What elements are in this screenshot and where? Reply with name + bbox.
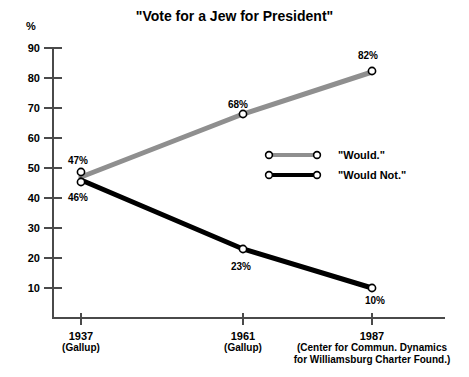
plot-area [0,0,469,377]
x-axis-source-1961: (Gallup) [193,342,293,354]
x-axis-group-1987: 1987 (Center for Commun. Dynamics for Wi… [282,330,462,366]
x-axis-group-1961: 1961 (Gallup) [193,330,293,354]
x-axis-year-1987: 1987 [282,330,462,342]
legend-label-would: "Would." [338,149,385,161]
data-label-would-not-1961: 23% [231,261,251,272]
x-axis-source-1987: (Center for Commun. Dynamics for William… [282,342,462,366]
x-axis-year-1961: 1961 [193,330,293,342]
x-axis-year-1937: 1937 [31,330,131,342]
data-point-would-not-1937 [77,178,84,185]
series-line-would [81,72,372,177]
data-label-would-not-1937: 46% [68,192,88,203]
data-point-would-not-1961 [239,245,246,252]
legend-label-would-not: "Would Not." [338,169,406,181]
x-axis-group-1937: 1937 (Gallup) [31,330,131,354]
data-label-would-1961: 68% [228,99,248,110]
data-label-would-1987: 82% [358,50,378,61]
x-axis-source-1937: (Gallup) [31,342,131,354]
series-line-would-not [81,180,372,288]
legend-marker-would-left [266,152,273,159]
data-point-would-1961 [239,110,246,117]
data-label-would-1937: 47% [68,155,88,166]
data-point-would-1987 [368,67,375,74]
data-point-would-1937 [77,168,84,175]
data-point-would-not-1987 [368,284,375,291]
legend-marker-would-not-left [266,172,273,179]
data-label-would-not-1987: 10% [365,295,385,306]
legend-marker-would-not-right [314,172,321,179]
chart-container: "Vote for a Jew for President" % 90 80 7… [0,0,469,377]
legend-marker-would-right [314,152,321,159]
